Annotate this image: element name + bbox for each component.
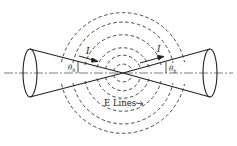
arrowhead-icon — [92, 58, 99, 62]
current-arrow-left — [79, 56, 98, 62]
biconical-antenna-diagram: I I θh θh E Lines — [0, 0, 237, 146]
e-arc-lower-5 — [106, 77, 141, 91]
left-cone-lower-edge — [30, 73, 123, 97]
angle-label-left: θh — [68, 64, 75, 73]
e-arc-lower-6 — [114, 75, 133, 82]
e-arc-upper-5 — [106, 55, 141, 69]
arrowhead-icon — [158, 56, 165, 60]
current-label-left: I — [85, 46, 90, 56]
e-lines-pointer-arrow — [136, 102, 143, 106]
e-lines-label: E Lines — [104, 98, 136, 108]
left-cone-upper-edge — [30, 49, 123, 73]
angle-label-right: θh — [169, 65, 176, 74]
current-arrow-right — [140, 56, 164, 64]
e-arc-upper-6 — [114, 64, 133, 71]
current-label-right: I — [156, 44, 161, 54]
e-arc-upper-1 — [62, 13, 185, 62]
e-arc-lower-1 — [62, 84, 185, 133]
